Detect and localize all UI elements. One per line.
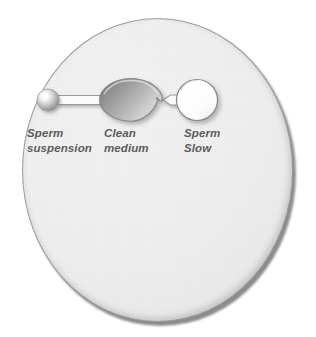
- clean-medium-chamber: [100, 78, 163, 121]
- label-clean-medium-line2: medium: [104, 141, 149, 156]
- label-sperm-suspension: Sperm suspension: [27, 126, 92, 155]
- figure-canvas: Sperm suspension Clean medium Sperm Slow: [0, 0, 316, 337]
- sperm-suspension-well: [37, 89, 59, 111]
- label-sperm-suspension-line1: Sperm: [27, 126, 92, 141]
- label-sperm-suspension-line2: suspension: [27, 141, 92, 156]
- label-clean-medium-line1: Clean: [104, 126, 149, 141]
- label-sperm-slow-line1: Sperm: [184, 126, 220, 141]
- sperm-slow-well: [177, 80, 218, 121]
- label-clean-medium: Clean medium: [104, 126, 149, 155]
- diagram-overlay: [0, 0, 316, 337]
- label-sperm-slow-line2: Slow: [184, 141, 220, 156]
- label-sperm-slow: Sperm Slow: [184, 126, 220, 155]
